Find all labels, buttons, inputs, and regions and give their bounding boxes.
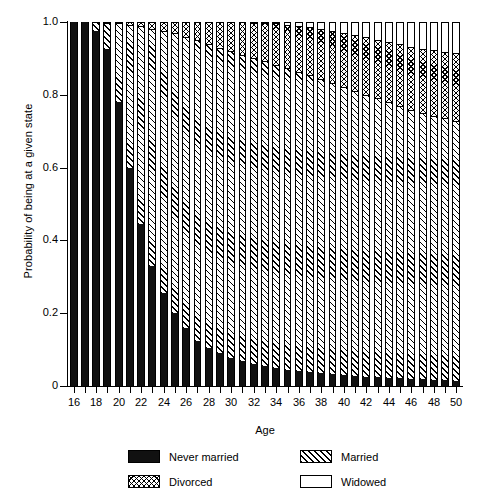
x-axis-tick — [231, 387, 232, 393]
stacked-bar — [70, 22, 78, 386]
x-axis-tick — [141, 387, 142, 393]
x-axis-tick — [220, 387, 221, 393]
bar-segment-married — [330, 83, 336, 374]
legend-item-widowed: Widowed — [300, 475, 386, 488]
legend-item-divorced: Divorced — [128, 475, 212, 488]
bar-segment-widowed — [408, 22, 414, 47]
bar-segment-never — [352, 376, 358, 386]
bar-segment-married — [397, 106, 403, 378]
bar-segment-married — [375, 98, 381, 377]
stacked-bar — [396, 22, 404, 386]
bar-segment-never — [217, 353, 223, 386]
bar-segment-married — [195, 40, 201, 341]
bar-segment-widowed — [307, 22, 313, 27]
stacked-bar — [103, 22, 111, 386]
bar-segment-married — [183, 37, 189, 328]
stacked-bar — [227, 22, 235, 386]
bar-segment-never — [318, 373, 324, 386]
y-axis-tick-label: 0.4 — [12, 234, 58, 245]
legend-swatch-never — [128, 450, 160, 463]
stacked-bar — [430, 22, 438, 386]
y-axis-tick-label: 0.2 — [12, 307, 58, 318]
stacked-bar — [272, 22, 280, 386]
bar-segment-never — [375, 377, 381, 386]
x-axis-tick — [321, 387, 322, 393]
bar-segment-divorced — [240, 22, 246, 55]
stacked-bar — [362, 22, 370, 386]
bar-segment-widowed — [330, 22, 336, 31]
x-axis-tick — [209, 387, 210, 393]
bar-segment-divorced — [161, 22, 167, 31]
x-axis-tick — [456, 387, 457, 393]
bar-segment-divorced — [104, 22, 110, 23]
bar-segment-widowed — [363, 22, 369, 37]
bar-segment-married — [104, 23, 110, 50]
bar-segment-married — [453, 121, 459, 381]
bar-segment-married — [341, 87, 347, 375]
stacked-bar — [182, 22, 190, 386]
x-axis-tick — [197, 387, 198, 393]
bar-segment-married — [217, 48, 223, 354]
x-axis-tick — [434, 387, 435, 393]
stacked-bar — [160, 22, 168, 386]
stacked-bar — [340, 22, 348, 386]
y-axis-tick — [60, 386, 67, 387]
bar-segment-never — [431, 380, 437, 386]
legend-label: Never married — [169, 451, 239, 463]
stacked-bar — [148, 22, 156, 386]
bar-segment-widowed — [397, 22, 403, 44]
x-axis-tick — [74, 387, 75, 393]
bar-segment-divorced — [206, 22, 212, 44]
legend-swatch-married — [300, 450, 332, 463]
stacked-bar — [171, 22, 179, 386]
bar-segment-married — [307, 75, 313, 372]
y-axis-tick — [60, 168, 67, 169]
bar-segment-divorced — [352, 35, 358, 91]
x-axis-tick — [344, 387, 345, 393]
stacked-bar — [374, 22, 382, 386]
bar-segment-never — [262, 366, 268, 386]
bar-segment-married — [240, 55, 246, 361]
bar-segment-never — [149, 266, 155, 386]
bar-segment-divorced — [296, 26, 302, 72]
bar-segment-divorced — [217, 22, 223, 47]
bar-segment-widowed — [341, 22, 347, 33]
bar-segment-divorced — [453, 53, 459, 120]
stacked-bar — [407, 22, 415, 386]
bar-segment-married — [431, 116, 437, 380]
stacked-bar — [452, 22, 460, 386]
bar-segment-never — [172, 313, 178, 386]
legend-item-married: Married — [300, 450, 378, 463]
bar-segment-never — [408, 379, 414, 386]
bar-segment-divorced — [285, 25, 291, 69]
bar-segment-never — [285, 370, 291, 386]
legend-swatch-divorced — [128, 475, 160, 488]
bar-segment-divorced — [195, 22, 201, 40]
stacked-bar — [115, 22, 123, 386]
bar-segment-widowed — [386, 22, 392, 42]
stacked-bar — [205, 22, 213, 386]
bar-segment-widowed — [352, 22, 358, 35]
x-axis-tick — [333, 387, 334, 393]
bar-segment-never — [127, 168, 133, 386]
bar-segment-never — [104, 49, 110, 386]
bar-segment-divorced — [228, 22, 234, 51]
bar-segment-married — [296, 72, 302, 371]
y-axis-tick — [60, 240, 67, 241]
x-axis-tick — [265, 387, 266, 393]
bar-segment-never — [93, 31, 99, 386]
x-axis-tick — [242, 387, 243, 393]
bar-segment-never — [397, 378, 403, 386]
bar-segment-never — [251, 364, 257, 386]
y-axis-tick-label: 0.6 — [12, 162, 58, 173]
bar-segment-divorced — [138, 22, 144, 26]
bar-segment-married — [285, 68, 291, 369]
bar-segment-never — [453, 381, 459, 386]
stacked-bar — [126, 22, 134, 386]
bar-segment-widowed — [431, 22, 437, 50]
y-axis-tick — [60, 95, 67, 96]
legend-label: Married — [341, 451, 378, 463]
x-axis-tick — [164, 387, 165, 393]
bar-segment-widowed — [442, 22, 448, 52]
bar-segment-divorced — [172, 22, 178, 33]
